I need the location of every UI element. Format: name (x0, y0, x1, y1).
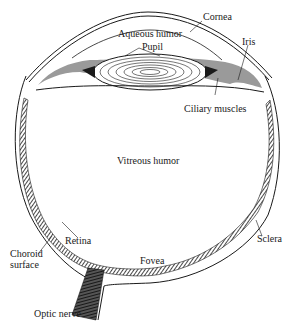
eye-diagram: Cornea Aqueous humor Pupil Iris Ciliary … (0, 0, 292, 326)
label-optic-nerve: Optic nerve (34, 308, 81, 319)
label-choroid-line2: surface (10, 259, 39, 270)
label-aqueous-humor: Aqueous humor (118, 28, 183, 39)
label-retina: Retina (65, 235, 92, 246)
label-pupil: Pupil (142, 41, 163, 52)
label-fovea: Fovea (140, 255, 165, 266)
label-iris: Iris (242, 36, 255, 47)
label-vitreous-humor: Vitreous humor (117, 155, 180, 166)
label-cornea: Cornea (203, 11, 232, 22)
label-choroid-line1: Choroid (10, 248, 43, 259)
lens (93, 54, 207, 90)
label-sclera: Sclera (257, 233, 283, 244)
label-ciliary-muscles: Ciliary muscles (184, 103, 247, 114)
retina-band (20, 98, 274, 276)
